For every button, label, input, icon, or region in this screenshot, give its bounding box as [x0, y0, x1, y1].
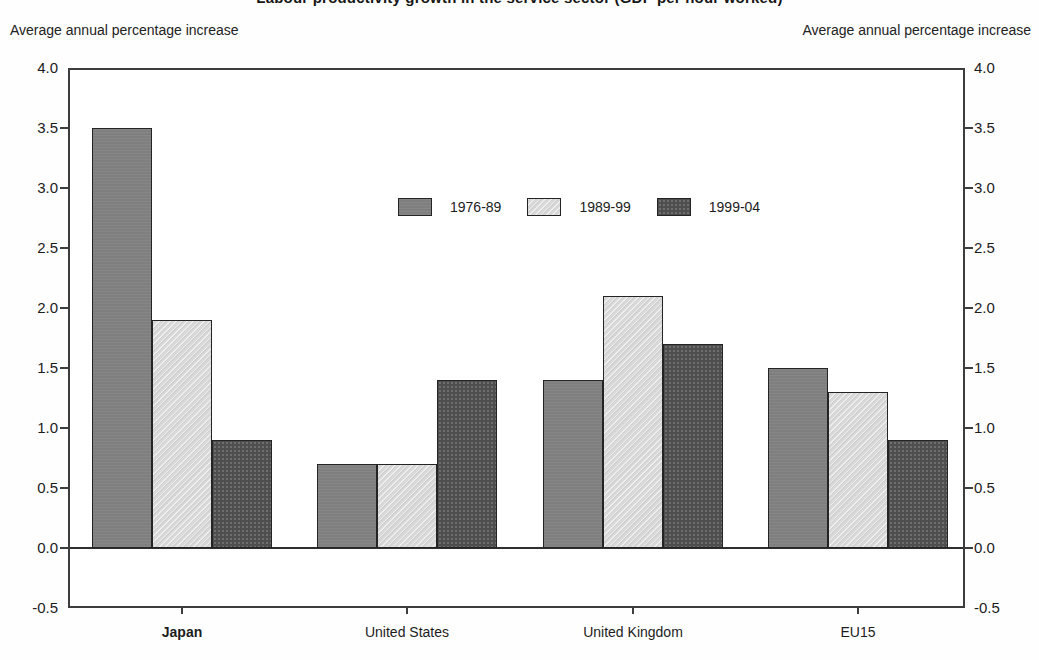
bar-1989-99-united-kingdom	[603, 296, 663, 548]
y-axis-tick-label-left: 3.0	[8, 180, 58, 196]
bar-1989-99-united-states	[377, 464, 437, 548]
right-axis-caption: Average annual percentage increase	[802, 22, 1031, 38]
bar-1976-89-japan	[92, 128, 152, 548]
y-axis-tick-right	[965, 427, 973, 429]
y-axis-tick-right	[965, 127, 973, 129]
productivity-bar-chart-figure: Labour productivity growth in the servic…	[0, 0, 1039, 660]
y-axis-tick-right	[965, 367, 973, 369]
y-axis-tick-label-left: 1.5	[8, 360, 58, 376]
legend: 1976-891989-991999-04	[398, 198, 760, 216]
bar-1976-89-united-states	[317, 464, 377, 548]
y-axis-tick-label-left: 0.0	[8, 540, 58, 556]
y-axis-tick-label-right: 3.5	[974, 120, 995, 136]
bar-1989-99-japan	[152, 320, 212, 548]
y-axis-tick-label-left: 4.0	[8, 60, 58, 76]
y-axis-tick-label-left: 1.0	[8, 420, 58, 436]
legend-item: 1989-99	[527, 198, 630, 216]
y-axis-tick-left	[60, 487, 68, 489]
y-axis-tick-right	[965, 187, 973, 189]
legend-swatch-1999-04	[657, 198, 691, 216]
x-axis-category-label: EU15	[768, 624, 948, 640]
y-axis-tick-label-left: 2.0	[8, 300, 58, 316]
y-axis-tick-label-right: 0.5	[974, 480, 995, 496]
y-axis-tick-left	[60, 307, 68, 309]
bar-1999-04-japan	[212, 440, 272, 548]
y-axis-tick-label-right: 1.0	[974, 420, 995, 436]
x-axis-category-label: United Kingdom	[543, 624, 723, 640]
y-axis-tick-left	[60, 187, 68, 189]
bar-1999-04-united-kingdom	[663, 344, 723, 548]
x-axis-category-label: Japan	[92, 624, 272, 640]
y-axis-tick-label-right: 1.5	[974, 360, 995, 376]
y-axis-tick-right	[965, 307, 973, 309]
legend-swatch-1989-99	[527, 198, 561, 216]
x-axis-tick	[406, 608, 408, 614]
x-axis-tick	[632, 608, 634, 614]
left-axis-caption: Average annual percentage increase	[10, 22, 239, 38]
x-axis-category-label: United States	[317, 624, 497, 640]
y-axis-tick-label-right: 4.0	[974, 60, 995, 76]
y-axis-tick-left	[60, 367, 68, 369]
bar-1999-04-eu15	[888, 440, 948, 548]
y-axis-tick-label-right: -0.5	[974, 600, 1000, 616]
y-axis-tick-label-left: 3.5	[8, 120, 58, 136]
y-axis-tick-label-left: 0.5	[8, 480, 58, 496]
figure-title-cropped: Labour productivity growth in the servic…	[0, 0, 1039, 9]
figure-title-text: Labour productivity growth in the servic…	[0, 0, 1039, 6]
y-axis-tick-label-right: 2.5	[974, 240, 995, 256]
y-axis-tick-left	[60, 547, 68, 549]
bar-1999-04-united-states	[437, 380, 497, 548]
y-axis-tick-right	[965, 547, 973, 549]
legend-item: 1999-04	[657, 198, 760, 216]
y-axis-tick-right	[965, 247, 973, 249]
y-axis-tick-label-right: 3.0	[974, 180, 995, 196]
y-axis-tick-label-right: 2.0	[974, 300, 995, 316]
legend-label: 1989-99	[579, 199, 630, 215]
bar-1989-99-eu15	[828, 392, 888, 548]
y-axis-tick-label-left: 2.5	[8, 240, 58, 256]
y-axis-tick-left	[60, 127, 68, 129]
legend-label: 1999-04	[709, 199, 760, 215]
bar-1976-89-eu15	[768, 368, 828, 548]
legend-item: 1976-89	[398, 198, 501, 216]
bar-1976-89-united-kingdom	[543, 380, 603, 548]
legend-swatch-1976-89	[398, 198, 432, 216]
y-axis-tick-label-left: -0.5	[8, 600, 58, 616]
y-axis-tick-label-right: 0.0	[974, 540, 995, 556]
y-axis-tick-left	[60, 247, 68, 249]
y-axis-tick-right	[965, 487, 973, 489]
x-axis-tick	[857, 608, 859, 614]
legend-label: 1976-89	[450, 199, 501, 215]
y-axis-tick-left	[60, 427, 68, 429]
x-axis-tick	[181, 608, 183, 614]
